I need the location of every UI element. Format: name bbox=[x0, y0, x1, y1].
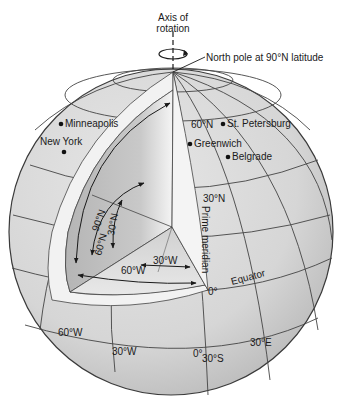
label-30w: 30°W bbox=[112, 346, 137, 357]
axis-label-line2: rotation bbox=[156, 23, 189, 34]
st-petersburg-dot bbox=[221, 122, 226, 127]
city-greenwich: Greenwich bbox=[194, 138, 242, 149]
label-30s: 30°S bbox=[202, 353, 224, 364]
label-30n: 30°N bbox=[203, 193, 225, 204]
minneapolis-dot bbox=[59, 122, 64, 127]
rotation-axis bbox=[159, 32, 205, 72]
axis-label-line1: Axis of bbox=[158, 12, 188, 23]
label-0-equator: 0° bbox=[208, 286, 218, 297]
arc-label-60w: 60°W bbox=[121, 265, 146, 276]
city-st-petersburg: St. Petersburg bbox=[227, 118, 291, 129]
label-30e: 30°E bbox=[250, 337, 272, 348]
prime-meridian-label: Prime meridian bbox=[200, 206, 211, 273]
city-minneapolis: Minneapolis bbox=[65, 118, 118, 129]
greenwich-dot bbox=[188, 142, 193, 147]
arc-label-30w: 30°W bbox=[153, 255, 178, 266]
label-60w: 60°W bbox=[58, 327, 83, 338]
north-pole-label: North pole at 90°N latitude bbox=[206, 52, 324, 63]
belgrade-dot bbox=[226, 155, 231, 160]
globe-diagram: Axis of rotation North pole at 90°N lati… bbox=[0, 0, 343, 407]
city-belgrade: Belgrade bbox=[232, 151, 272, 162]
new-york-dot bbox=[62, 150, 67, 155]
label-60n: 60°N bbox=[191, 119, 213, 130]
city-new-york: New York bbox=[40, 136, 83, 147]
